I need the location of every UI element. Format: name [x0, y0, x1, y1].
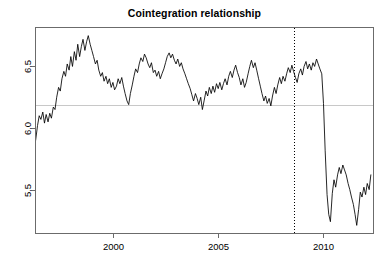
reference-lines-layer	[36, 28, 373, 233]
axes-layer	[31, 28, 374, 239]
y-axis-tick-label: 6.5	[22, 60, 33, 73]
y-axis-tick-label: 5.5	[22, 184, 33, 197]
y-axis-tick-label: 6.0	[22, 122, 33, 135]
plot-box	[36, 28, 374, 234]
x-axis-tick-label: 2010	[313, 241, 334, 252]
tick-labels-layer: 5.56.06.5200020052010	[22, 60, 335, 252]
x-axis-tick-label: 2005	[208, 241, 229, 252]
cointegration-line-chart: 5.56.06.5200020052010	[0, 0, 389, 265]
series-layer	[36, 36, 371, 226]
x-axis-tick-label: 2000	[103, 241, 124, 252]
series-line	[36, 36, 371, 226]
chart-container: Cointegration relationship 5.56.06.52000…	[0, 0, 389, 265]
